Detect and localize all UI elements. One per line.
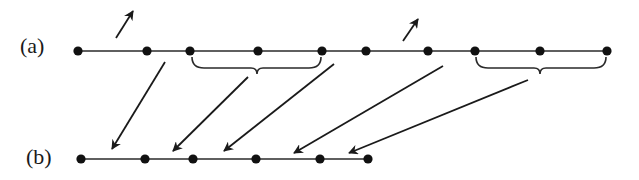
node-dot <box>363 154 372 163</box>
row-b-label: (b) <box>26 144 52 169</box>
node-dot <box>315 154 324 163</box>
node-dot <box>73 46 82 55</box>
node-dot <box>185 46 194 55</box>
node-dot <box>253 46 262 55</box>
node-dot <box>423 46 432 55</box>
node-dot <box>142 46 151 55</box>
mapping-arrow-icon <box>349 80 528 153</box>
node-dot <box>251 154 260 163</box>
row-a: (a) <box>20 33 612 58</box>
curly-brace <box>476 57 606 74</box>
row-a-label: (a) <box>20 33 44 58</box>
row-b: (b) <box>26 144 373 169</box>
up-arrow-icon <box>116 11 133 38</box>
curly-brace <box>192 57 321 74</box>
node-dot <box>470 46 479 55</box>
mapping-arrow-icon <box>224 64 334 151</box>
up-arrows <box>116 11 418 41</box>
node-dot <box>140 154 149 163</box>
node-dot <box>76 154 85 163</box>
node-dot <box>602 46 611 55</box>
mapping-arrow-icon <box>112 62 165 149</box>
node-dot <box>317 46 326 55</box>
sequence-mapping-diagram: (a) (b) <box>0 0 639 180</box>
node-dot <box>535 46 544 55</box>
mapping-arrows <box>112 62 528 153</box>
grouping-braces <box>192 57 606 74</box>
node-dot <box>188 154 197 163</box>
node-dot <box>361 46 370 55</box>
up-arrow-icon <box>403 19 418 41</box>
